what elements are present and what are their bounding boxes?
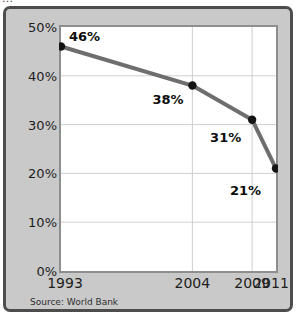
y-axis-tick-label: 30% [11,117,57,132]
data-point-label: 31% [210,130,241,145]
data-point-marker [188,81,196,89]
y-axis-tick-label: 40% [11,68,57,83]
x-axis-tick-label: 1993 [47,275,83,291]
x-axis: 1993200420092011 [6,275,296,297]
data-point-marker [248,116,256,124]
gridlines [61,27,276,271]
y-axis-tick-label: 50% [11,20,57,35]
y-axis-tick-label: 20% [11,166,57,181]
y-axis: 0%10%20%30%40%50% [6,25,57,273]
chart-frame: 0%10%20%30%40%50% 46%38%31%21% 199320042… [3,6,293,312]
x-axis-tick-label: 2011 [253,275,289,291]
chart-figure: … 0%10%20%30%40%50% 46%38%31%21% 1993200… [0,0,302,320]
source-note: Source: World Bank [30,297,118,307]
data-point-label: 21% [230,183,261,198]
data-point-label: 46% [69,29,100,44]
plot-area-wrapper: 46%38%31%21% [59,25,278,273]
x-axis-tick-label: 2004 [175,275,211,291]
y-axis-tick-label: 10% [11,215,57,230]
data-point-label: 38% [152,92,183,107]
clipped-top-text: … [2,0,14,5]
data-line [61,47,276,169]
chart-line-svg [59,25,278,273]
